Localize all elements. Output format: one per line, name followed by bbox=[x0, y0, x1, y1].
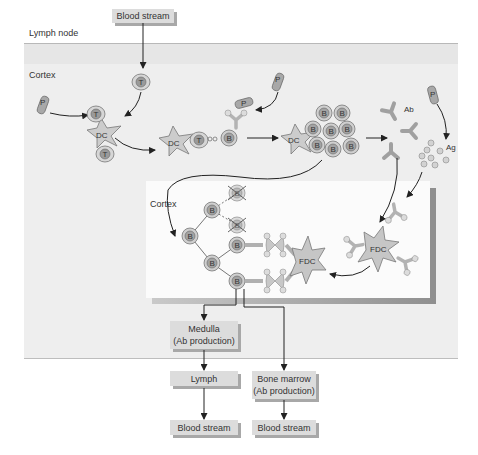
svg-text:B: B bbox=[345, 125, 350, 134]
antibody-receptor bbox=[225, 110, 247, 128]
svg-text:B: B bbox=[311, 125, 316, 134]
arrow-fdc-to-fdc bbox=[330, 266, 370, 276]
pathogen-label: P bbox=[430, 90, 435, 99]
svg-text:B: B bbox=[322, 109, 327, 118]
svg-text:T: T bbox=[197, 136, 202, 145]
dc2-label: DC bbox=[168, 139, 180, 148]
svg-text:B: B bbox=[235, 241, 240, 250]
antigen-label: Ag bbox=[446, 143, 456, 152]
svg-text:B: B bbox=[331, 145, 336, 154]
b-cell: B bbox=[221, 130, 237, 146]
b-cell: B bbox=[204, 255, 220, 271]
pathogen-label: P bbox=[40, 98, 45, 107]
svg-text:B: B bbox=[235, 277, 240, 286]
antibody-receptor bbox=[383, 202, 408, 224]
apoptotic-b-cell: B bbox=[228, 185, 246, 201]
arrow-p-to-dc bbox=[50, 113, 88, 116]
arrow-t-to-dc bbox=[125, 92, 141, 116]
arrow-to-medulla bbox=[204, 289, 236, 320]
arrow-to-bone-marrow bbox=[244, 289, 284, 370]
svg-text:B: B bbox=[349, 142, 354, 151]
antigen-cluster bbox=[419, 140, 449, 168]
antibody-icon bbox=[384, 144, 398, 158]
b-cell: B bbox=[182, 228, 198, 244]
arrow-p-to-b bbox=[256, 92, 278, 110]
svg-text:B: B bbox=[227, 134, 232, 143]
svg-text:B: B bbox=[329, 127, 334, 136]
b-cell: B bbox=[229, 237, 245, 253]
svg-text:T: T bbox=[139, 78, 144, 87]
b-cell: B bbox=[204, 202, 220, 218]
svg-text:T: T bbox=[103, 150, 108, 159]
diagram-canvas: T P DC T T DC T B P P DC B B B B B B B B… bbox=[0, 0, 478, 455]
antibody-label: Ab bbox=[404, 105, 414, 114]
t-cell: T bbox=[132, 74, 150, 90]
t-cell: T bbox=[96, 146, 114, 162]
antibody-icon bbox=[402, 124, 416, 138]
b-cell-cluster: B B B B B B B B bbox=[305, 105, 359, 157]
arrow-ag-to-fdc bbox=[407, 172, 422, 197]
arrow-dc1-to-dc2 bbox=[115, 138, 155, 150]
svg-text:B: B bbox=[315, 141, 320, 150]
svg-text:T: T bbox=[94, 110, 99, 119]
dc3-label: DC bbox=[288, 136, 300, 145]
dc1-label: DC bbox=[96, 131, 108, 140]
pathogen-label: P bbox=[275, 75, 280, 84]
arrow-p-to-ag bbox=[437, 104, 446, 139]
fdc-label: FDC bbox=[299, 257, 316, 266]
immune-complex bbox=[245, 233, 295, 257]
t-cell: T bbox=[87, 106, 105, 122]
b-cell: B bbox=[229, 273, 245, 289]
apoptotic-b-cell: B bbox=[228, 217, 246, 233]
antibody-receptor bbox=[343, 234, 365, 259]
svg-text:B: B bbox=[210, 206, 215, 215]
fdc-right-label: FDC bbox=[370, 245, 387, 254]
pathogen-label: P bbox=[241, 99, 246, 108]
svg-text:B: B bbox=[188, 232, 193, 241]
t-cell: T bbox=[190, 132, 208, 148]
immune-complex bbox=[245, 269, 295, 293]
svg-text:B: B bbox=[340, 109, 345, 118]
svg-text:B: B bbox=[210, 259, 215, 268]
antibody-icon bbox=[382, 103, 401, 122]
